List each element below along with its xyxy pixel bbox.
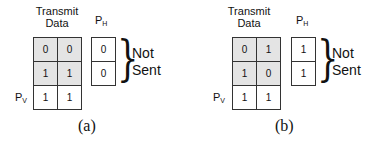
pv-label: PV <box>213 91 225 104</box>
panel-b: Transmit Data PH 0 1 1 0 1 1 PV 1 1 } No… <box>185 0 370 145</box>
panel-a: Transmit Data PH 0 0 1 1 1 1 PV 0 0 } No… <box>0 0 185 145</box>
note-line1: Not <box>132 45 161 62</box>
title-line1: Transmit <box>27 5 87 17</box>
title-line2: Data <box>219 17 279 29</box>
pv-cell: 1 <box>33 85 58 110</box>
data-cell: 1 <box>57 61 82 86</box>
transmit-data-title: Transmit Data <box>27 5 87 29</box>
note-line1: Not <box>332 45 361 62</box>
data-cell: 1 <box>33 61 58 86</box>
pv-cell: 1 <box>232 85 257 110</box>
data-cell: 0 <box>256 61 281 86</box>
pv-cell: 1 <box>256 85 281 110</box>
ph-label: PH <box>296 14 308 27</box>
note-line2: Sent <box>332 62 361 79</box>
not-sent-note: Not Sent <box>332 45 361 79</box>
transmit-data-title: Transmit Data <box>219 5 279 29</box>
data-cell: 0 <box>57 37 82 62</box>
ph-cell: 0 <box>91 37 116 62</box>
data-cell: 1 <box>232 61 257 86</box>
not-sent-note: Not Sent <box>132 45 161 79</box>
data-cell: 0 <box>232 37 257 62</box>
ph-cell: 0 <box>91 61 116 86</box>
caption: (b) <box>275 117 294 135</box>
title-line1: Transmit <box>219 5 279 17</box>
data-cell: 0 <box>33 37 58 62</box>
ph-label: PH <box>95 14 107 27</box>
ph-cell: 1 <box>291 61 316 86</box>
note-line2: Sent <box>132 62 161 79</box>
pv-cell: 1 <box>57 85 82 110</box>
caption: (a) <box>78 117 96 135</box>
data-cell: 1 <box>256 37 281 62</box>
ph-cell: 1 <box>291 37 316 62</box>
pv-label: PV <box>15 91 27 104</box>
title-line2: Data <box>27 17 87 29</box>
